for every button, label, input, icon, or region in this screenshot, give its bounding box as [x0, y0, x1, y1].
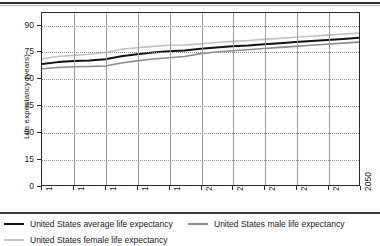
x-tick-mark [105, 186, 106, 190]
grid-line-vertical [329, 13, 330, 185]
x-tick-mark [137, 186, 138, 190]
legend-swatch-line-icon [188, 223, 208, 225]
legend-item[interactable]: United States female life expectancy [4, 234, 168, 246]
legend-item[interactable]: United States average life expectancy [4, 218, 173, 230]
x-tick-mark [296, 186, 297, 190]
y-tick-label: 75 [0, 47, 34, 56]
x-tick-mark [328, 186, 329, 190]
grid-line-vertical [106, 13, 107, 185]
legend-label: United States male life expectancy [214, 220, 344, 229]
grid-line-horizontal [42, 106, 359, 107]
legend-divider-rule [0, 212, 380, 214]
grid-line-vertical [170, 13, 171, 185]
x-tick-mark [232, 186, 233, 190]
x-tick-mark [264, 186, 265, 190]
grid-line-horizontal [42, 133, 359, 134]
legend-swatch-line-icon [4, 223, 24, 225]
x-tick-mark [73, 186, 74, 190]
series-line [42, 42, 359, 69]
y-tick-label: 45 [0, 101, 34, 110]
chart-figure: Life expectancy (years) 0153045607590 19… [0, 0, 380, 246]
grid-line-vertical [297, 13, 298, 185]
legend-swatch-line-icon [4, 239, 24, 241]
legend-item[interactable]: United States male life expectancy [188, 218, 344, 230]
grid-line-vertical [138, 13, 139, 185]
legend-label: United States average life expectancy [30, 220, 173, 229]
x-tick-mark [360, 186, 361, 190]
grid-line-vertical [74, 13, 75, 185]
legend-label: United States female life expectancy [30, 236, 168, 245]
x-tick-mark [41, 186, 42, 190]
plot-area [41, 12, 360, 186]
grid-line-horizontal [42, 79, 359, 80]
grid-line-horizontal [42, 26, 359, 27]
grid-line-vertical [233, 13, 234, 185]
x-tick-label: 2050 [364, 172, 373, 191]
y-tick-label: 15 [0, 155, 34, 164]
y-tick-label: 30 [0, 128, 34, 137]
grid-line-horizontal [42, 52, 359, 53]
grid-line-horizontal [42, 160, 359, 161]
x-tick-mark [201, 186, 202, 190]
grid-line-vertical [202, 13, 203, 185]
grid-line-vertical [265, 13, 266, 185]
series-line [42, 38, 359, 64]
y-tick-label: 0 [0, 182, 34, 191]
y-tick-label: 60 [0, 74, 34, 83]
y-tick-label: 90 [0, 21, 34, 30]
plot-inner [42, 13, 359, 185]
x-tick-mark [169, 186, 170, 190]
